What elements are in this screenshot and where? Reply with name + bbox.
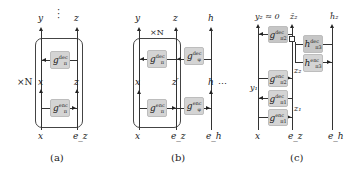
label-z2: z₂ xyxy=(294,66,301,75)
h-branch-line xyxy=(295,42,296,63)
repeat-label: ×N xyxy=(150,28,164,37)
arrow-left-icon xyxy=(177,57,181,61)
label-x-mid: x xyxy=(135,78,140,87)
label-eh-bottom: e_h xyxy=(206,132,222,141)
eh-line xyxy=(332,27,333,130)
block-g-dec-phi: gdecφ xyxy=(184,47,204,65)
arrow-left-icon xyxy=(259,32,263,36)
arrow-left-icon xyxy=(259,96,263,100)
block-g-enc-pi: gencπ xyxy=(147,99,167,117)
caption-a: (a) xyxy=(50,153,64,163)
repeat-label: ×N xyxy=(17,78,32,87)
arrow-up-icon xyxy=(209,90,213,94)
label-h-top: h xyxy=(208,14,214,23)
block-h-enc-pi3: hencπ3 xyxy=(303,54,323,72)
label-z-mid: z xyxy=(74,78,79,87)
caption-b: (b) xyxy=(171,153,185,163)
arrow-up-icon xyxy=(75,89,79,93)
label-y1: y₁ xyxy=(250,83,258,92)
caption-c: (c) xyxy=(290,153,303,163)
label-h2hat-top: ĥ₂ xyxy=(330,12,338,21)
horizontal-ellipsis: ⋯ xyxy=(218,82,227,86)
block-g-enc-pi1: gencπ1 xyxy=(268,109,288,126)
arrow-right-icon xyxy=(172,106,176,110)
arrow-left-icon xyxy=(42,58,46,62)
arrow-up-icon xyxy=(39,89,43,93)
label-z2hat-top: ẑ₂ xyxy=(290,12,297,21)
label-ez-bottom: e_z xyxy=(288,132,303,141)
arrow-right-icon xyxy=(327,60,331,64)
label-eh-bottom: e_h xyxy=(328,132,344,141)
label-x-bottom: x xyxy=(135,132,140,141)
label-ez-bottom: e_z xyxy=(73,132,88,141)
label-y-top: y xyxy=(38,14,43,23)
block-g-enc-phi: gencφ xyxy=(184,97,204,115)
label-z-top: z xyxy=(74,14,79,23)
block-g-dec-pi2: gdecπ2 xyxy=(268,26,288,43)
label-x-bottom: x xyxy=(255,132,260,141)
block-g-dec-pi1: gdecπ1 xyxy=(268,90,288,107)
label-x-bottom: x xyxy=(38,132,43,141)
arrow-right-icon xyxy=(72,106,76,110)
label-z1: z₁ xyxy=(294,104,301,113)
vertical-ellipsis: ··· xyxy=(57,8,60,20)
block-h-dec-pi3: hdecπ3 xyxy=(303,35,323,53)
label-x-mid: x xyxy=(38,78,43,87)
arrow-left-icon xyxy=(140,57,144,61)
label-y2-top: y₂ ≈ 0 xyxy=(255,12,280,21)
block-g-enc-pi2: gencπ2 xyxy=(268,70,288,87)
label-z-top: z xyxy=(173,14,178,23)
label-ez-bottom: e_z xyxy=(171,132,186,141)
block-g-dec: gdecπ xyxy=(50,51,70,69)
block-g-enc: gencπ xyxy=(50,99,70,117)
label-y-top: y xyxy=(135,14,140,23)
ez-line xyxy=(292,27,293,130)
arrow-right-icon xyxy=(206,106,210,110)
arrow-up-icon xyxy=(137,90,141,94)
label-h-mid: h xyxy=(208,78,214,87)
label-zprime-mid: z′ xyxy=(172,78,179,87)
block-g-dec-pi: gdecπ xyxy=(147,50,167,68)
